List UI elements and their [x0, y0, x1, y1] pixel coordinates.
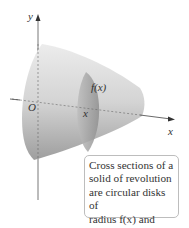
x-position-label: x	[83, 107, 88, 119]
caption-line: Cross sections of a	[89, 159, 174, 172]
origin-label: O	[28, 101, 36, 113]
caption-line: radius f(x) and area	[89, 213, 174, 228]
x-axis-arrow-icon	[168, 117, 175, 122]
caption-box: Cross sections of a solid of revolution …	[84, 155, 179, 218]
radius-label: f(x)	[91, 81, 106, 93]
y-axis-label: y	[28, 10, 33, 22]
y-axis-arrow-icon	[36, 14, 41, 21]
x-axis-label: x	[168, 125, 173, 137]
caption-line: solid of revolution	[89, 172, 174, 185]
caption-line: are circular disks of	[89, 186, 174, 213]
x-axis	[140, 115, 171, 119]
